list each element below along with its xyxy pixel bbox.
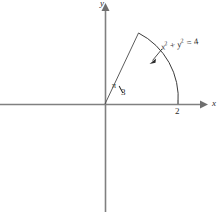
equation-y-exponent: 2 bbox=[180, 37, 184, 43]
x-tick-label-2: 2 bbox=[175, 107, 180, 116]
equation-equals-sign: = bbox=[186, 37, 193, 48]
equation-plus-sign: + bbox=[169, 40, 176, 51]
fraction-numerator: π bbox=[112, 82, 116, 90]
fraction-denominator: 3 bbox=[121, 88, 126, 97]
polar-region-figure: y x 2 π 3 x2 + y2 = 4 bbox=[0, 0, 223, 212]
angle-label-pi-over-3: π 3 bbox=[112, 82, 128, 101]
figure-canvas bbox=[0, 0, 223, 212]
x-axis-arrowhead bbox=[200, 101, 208, 109]
equation-x-exponent: 2 bbox=[164, 40, 168, 46]
equation-right-hand-side: 4 bbox=[193, 36, 199, 47]
x-axis-label: x bbox=[212, 99, 216, 108]
y-axis-label: y bbox=[100, 0, 104, 8]
fraction-pi-over-3: π 3 bbox=[112, 82, 128, 98]
equation-leader-arrowhead bbox=[150, 59, 157, 65]
